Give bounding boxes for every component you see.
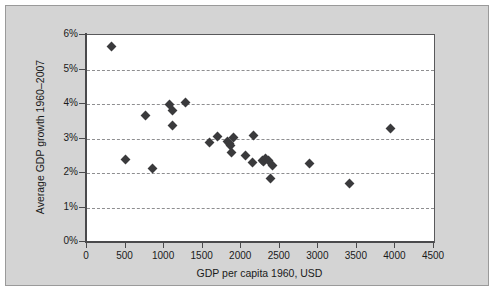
x-tick-0 xyxy=(86,242,87,248)
x-tick-label-0: 0 xyxy=(66,250,106,261)
x-tick-3000 xyxy=(317,242,318,248)
y-tick-label-1: 1% xyxy=(50,202,78,212)
gridline-y-2 xyxy=(87,173,434,174)
data-point xyxy=(168,120,178,130)
y-tick-2 xyxy=(79,172,86,173)
plot-area xyxy=(86,34,435,243)
screenshot-root: 0%1%2%3%4%5%6% 0500100015002000250030003… xyxy=(0,0,496,293)
data-point xyxy=(120,155,130,165)
x-tick-label-2000: 2000 xyxy=(220,250,260,261)
data-point xyxy=(212,131,222,141)
x-tick-3500 xyxy=(356,242,357,248)
x-tick-label-3500: 3500 xyxy=(336,250,376,261)
data-point xyxy=(385,124,395,134)
gridline-y-5 xyxy=(87,70,434,71)
y-axis-title: Average GDP growth 1960–2007 xyxy=(34,37,46,237)
y-tick-3 xyxy=(79,138,86,139)
x-tick-4500 xyxy=(433,242,434,248)
data-point xyxy=(226,148,236,158)
y-tick-label-6: 6% xyxy=(50,29,78,39)
data-point xyxy=(344,178,354,188)
y-tick-label-3: 3% xyxy=(50,133,78,143)
data-point xyxy=(141,110,151,120)
x-tick-label-4500: 4500 xyxy=(413,250,453,261)
y-tick-6 xyxy=(79,34,86,35)
data-point xyxy=(305,159,315,169)
x-tick-2500 xyxy=(279,242,280,248)
x-tick-1000 xyxy=(163,242,164,248)
data-point xyxy=(180,98,190,108)
y-tick-label-0: 0% xyxy=(50,236,78,246)
y-tick-5 xyxy=(79,69,86,70)
y-tick-label-4: 4% xyxy=(50,98,78,108)
x-tick-label-1000: 1000 xyxy=(143,250,183,261)
data-point xyxy=(268,161,278,171)
x-tick-label-2500: 2500 xyxy=(259,250,299,261)
x-tick-500 xyxy=(125,242,126,248)
x-axis-title: GDP per capita 1960, USD xyxy=(86,267,433,279)
x-tick-4000 xyxy=(394,242,395,248)
y-tick-label-2: 2% xyxy=(50,167,78,177)
y-tick-0 xyxy=(79,241,86,242)
x-tick-2000 xyxy=(240,242,241,248)
y-tick-4 xyxy=(79,103,86,104)
gridline-y-4 xyxy=(87,104,434,105)
chart-figure-panel: 0%1%2%3%4%5%6% 0500100015002000250030003… xyxy=(5,5,489,286)
y-tick-label-5: 5% xyxy=(50,64,78,74)
gridline-y-3 xyxy=(87,139,434,140)
data-point xyxy=(107,42,117,52)
y-tick-1 xyxy=(79,207,86,208)
data-point xyxy=(241,150,251,160)
x-axis-line xyxy=(85,241,434,243)
data-point xyxy=(247,157,257,167)
gridline-y-1 xyxy=(87,208,434,209)
x-tick-label-3000: 3000 xyxy=(297,250,337,261)
x-tick-1500 xyxy=(202,242,203,248)
x-tick-label-4000: 4000 xyxy=(374,250,414,261)
data-point xyxy=(266,174,276,184)
x-tick-label-500: 500 xyxy=(105,250,145,261)
x-tick-label-1500: 1500 xyxy=(182,250,222,261)
